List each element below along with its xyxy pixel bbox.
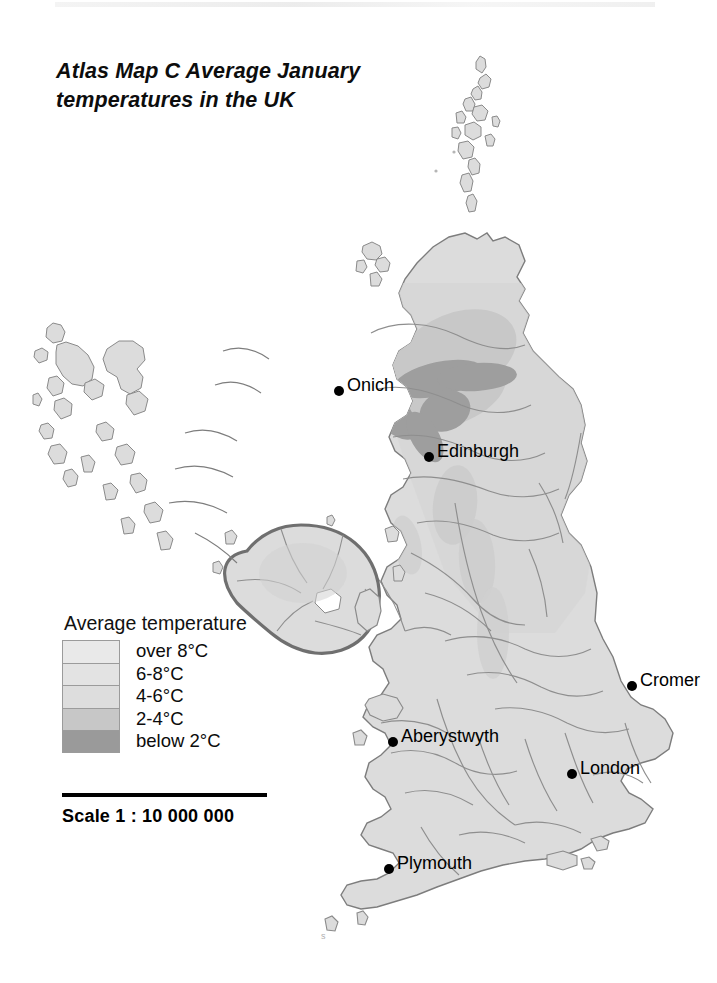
- city-label: Onich: [347, 375, 394, 396]
- city-label: London: [580, 758, 640, 779]
- city-label: Aberystwyth: [401, 726, 499, 747]
- legend-swatch: [62, 663, 120, 686]
- page-title: Atlas Map C Average January temperatures…: [56, 57, 476, 115]
- legend-swatch: [62, 640, 120, 663]
- legend-row: over 8°C: [62, 640, 292, 663]
- legend-heading: Average temperature: [64, 612, 292, 635]
- map-legend: Average temperature over 8°C6-8°C4-6°C2-…: [62, 612, 292, 753]
- legend-label: 4-6°C: [136, 685, 184, 707]
- scan-artifact-bar: [55, 2, 655, 7]
- city-label: Plymouth: [397, 853, 472, 874]
- city-label: Edinburgh: [437, 441, 519, 462]
- map-speck: [452, 150, 455, 153]
- legend-swatch: [62, 730, 120, 753]
- city-dot-icon: [627, 681, 637, 691]
- city-label: Cromer: [640, 670, 700, 691]
- city-dot-icon: [424, 452, 434, 462]
- legend-row: 6-8°C: [62, 663, 292, 686]
- legend-rows: over 8°C6-8°C4-6°C2-4°Cbelow 2°C: [62, 640, 292, 753]
- map-scale: Scale 1 : 10 000 000: [62, 793, 272, 827]
- legend-label: over 8°C: [136, 640, 208, 662]
- city-dot-icon: [334, 386, 344, 396]
- legend-label: 6-8°C: [136, 663, 184, 685]
- page-title-line-1: Atlas Map C Average January: [56, 57, 476, 86]
- city-dot-icon: [388, 737, 398, 747]
- scale-text: Scale 1 : 10 000 000: [62, 806, 272, 827]
- legend-label: below 2°C: [136, 730, 221, 752]
- legend-label: 2-4°C: [136, 708, 184, 730]
- svg-text:s: s: [321, 931, 326, 941]
- city-dot-icon: [384, 864, 394, 874]
- legend-swatch: [62, 685, 120, 708]
- map-speck: [434, 169, 437, 172]
- scale-bar: [62, 793, 267, 797]
- city-dot-icon: [567, 769, 577, 779]
- legend-row: 2-4°C: [62, 708, 292, 731]
- legend-row: 4-6°C: [62, 685, 292, 708]
- legend-row: below 2°C: [62, 730, 292, 753]
- legend-swatch: [62, 708, 120, 731]
- page-title-line-2: temperatures in the UK: [56, 86, 476, 115]
